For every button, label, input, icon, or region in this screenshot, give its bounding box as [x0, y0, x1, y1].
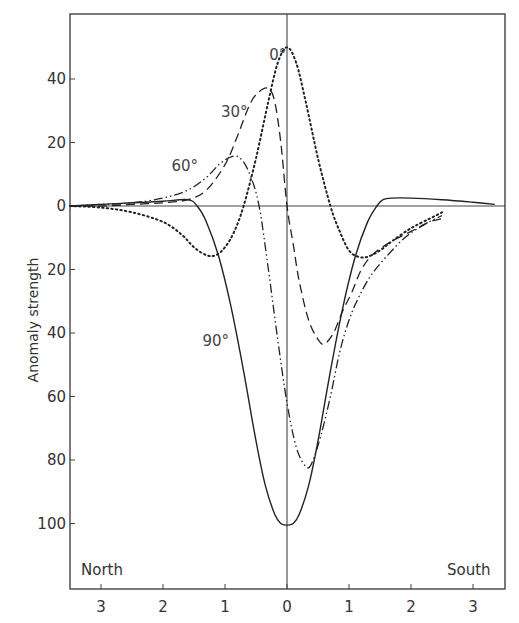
curve-labels: 0°30°60°90°: [171, 46, 286, 350]
y-axis-title: Anomaly strength: [25, 258, 41, 383]
curve-label-0deg: 0°: [269, 46, 286, 64]
x-tick-label: 2: [158, 598, 168, 616]
y-tick-label: 40: [47, 324, 66, 342]
anomaly-chart: 40200204060801003210123 0°30°60°90° Anom…: [0, 0, 519, 623]
x-tick-label: 3: [96, 598, 106, 616]
x-tick-label: 0: [282, 598, 292, 616]
y-tick-label: 20: [47, 261, 66, 279]
y-tick-label: 60: [47, 388, 66, 406]
south-label: South: [447, 561, 491, 579]
series-curve-0deg: [70, 47, 442, 257]
curve-label-90deg: 90°: [202, 332, 229, 350]
series-curve-30deg: [70, 88, 442, 344]
y-tick-label: 0: [56, 197, 66, 215]
y-tick-label: 80: [47, 451, 66, 469]
plot-frame: [70, 14, 505, 589]
north-label: North: [81, 561, 123, 579]
x-tick-label: 1: [220, 598, 230, 616]
data-series: [70, 47, 495, 525]
curve-label-30deg: 30°: [221, 103, 248, 121]
y-tick-label: 20: [47, 134, 66, 152]
curve-label-60deg: 60°: [171, 157, 198, 175]
series-curve-90deg: [70, 198, 495, 525]
x-tick-label: 3: [468, 598, 478, 616]
y-tick-label: 40: [47, 70, 66, 88]
x-tick-label: 2: [406, 598, 416, 616]
x-tick-label: 1: [344, 598, 354, 616]
y-tick-label: 100: [37, 515, 66, 533]
